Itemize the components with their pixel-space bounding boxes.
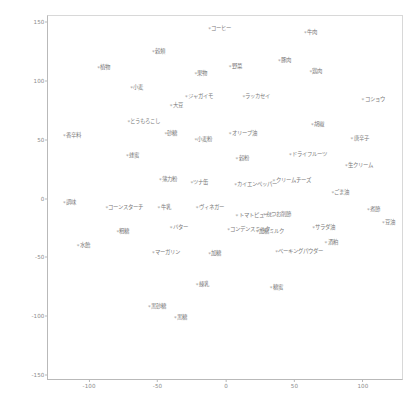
scatter-point-label: 水飴 xyxy=(80,243,90,248)
x-axis-tick-label: 0 xyxy=(224,379,228,389)
scatter-point-label: 胡椒 xyxy=(314,122,324,127)
scatter-point-label: 加糖ミルク xyxy=(259,229,284,234)
scatter-point-label: 加糖 xyxy=(211,251,221,256)
scatter-point-label: 薄力粉 xyxy=(162,177,177,182)
scatter-point-label: ジャガイモ xyxy=(188,95,213,100)
y-axis-tick-label: -50 xyxy=(35,254,48,260)
scatter-point-label: ごま油 xyxy=(334,190,349,195)
scatter-point-label: 植物 xyxy=(100,65,110,70)
scatter-point-label: オリーブ油 xyxy=(232,131,257,136)
y-axis-tick-label: 150 xyxy=(34,19,48,25)
x-axis-tick-label: 100 xyxy=(357,379,368,389)
scatter-point-label: 酒粕 xyxy=(328,241,338,246)
plot-area: 150100500-50-100-150 -100-50050100 *コーヒー… xyxy=(47,15,403,380)
scatter-point-label: 煮節 xyxy=(370,208,380,213)
scatter-point-label: 練乳 xyxy=(199,282,209,287)
y-axis-tick-label: 100 xyxy=(34,78,48,84)
scatter-point-label: 豆油 xyxy=(385,221,395,226)
scatter-point-label: サラダ油 xyxy=(315,225,335,230)
scatter-point-label: 生クリーム xyxy=(348,163,373,168)
scatter-point-label: 小麦粉 xyxy=(197,137,212,142)
scatter-point-label: ドライフルーツ xyxy=(292,152,327,157)
scatter-point-label: 野菜 xyxy=(232,64,242,69)
scatter-point-label: とうもろこし xyxy=(130,119,160,124)
scatter-point-label: 鶏肉 xyxy=(312,69,322,74)
scatter-point-label: コーヒー xyxy=(211,26,231,31)
scatter-point-label: 黒砂糖 xyxy=(151,304,166,309)
y-axis-tick-label: -100 xyxy=(31,313,48,319)
scatter-point-label: ヴィネガー xyxy=(199,205,224,210)
scatter-point-label: 香辛料 xyxy=(66,134,81,139)
scatter-point-label: ツナ缶 xyxy=(193,181,208,186)
scatter-point-label: 大豆 xyxy=(173,103,183,108)
scatter-point-label: コーンスターチ xyxy=(108,205,143,210)
scatter-point-label: 粗糖 xyxy=(119,229,129,234)
scatter-point-label: 糖蜜 xyxy=(273,285,283,290)
y-axis-tick-label: -150 xyxy=(31,372,48,378)
scatter-point-label: 豚肉 xyxy=(281,58,291,63)
scatter-point-label: カイエンペッパー xyxy=(237,182,277,187)
scatter-point-label: コショウ xyxy=(365,97,385,102)
scatter-point-label: 穀類 xyxy=(155,49,165,54)
scatter-point-label: 砂糖 xyxy=(167,131,177,136)
x-axis-tick-label: 50 xyxy=(291,379,298,389)
scatter-point-label: 牛乳 xyxy=(161,205,171,210)
scatter-point-label: 穀粉 xyxy=(239,156,249,161)
y-axis-tick-label: 0 xyxy=(41,196,48,202)
scatter-point-label: バター xyxy=(173,225,188,230)
scatter-point-label: 調味 xyxy=(66,201,76,206)
scatter-point-label: ラッカセイ xyxy=(245,95,270,100)
scatter-point-label: 唐辛子 xyxy=(354,136,369,141)
scatter-point-label: 果物 xyxy=(197,71,207,76)
scatter-point-label: 牛肉 xyxy=(307,30,317,35)
scatter-point-label: 黒糖 xyxy=(177,315,187,320)
scatter-point-label: 小麦 xyxy=(133,85,143,90)
scatter-point-label: 蜂蜜 xyxy=(129,154,139,159)
scatter-point-label: ベーキングパウダー xyxy=(278,249,323,254)
scatter-plot-figure: 150100500-50-100-150 -100-50050100 *コーヒー… xyxy=(0,0,418,419)
y-axis-tick-label: 50 xyxy=(37,137,48,143)
scatter-point-label: かつお削節 xyxy=(266,212,291,217)
x-axis-tick-label: -50 xyxy=(153,379,162,389)
x-axis-tick-label: -100 xyxy=(83,379,96,389)
scatter-point-label: クリームチーズ xyxy=(276,178,311,183)
scatter-point-label: マーガリン xyxy=(155,250,180,255)
